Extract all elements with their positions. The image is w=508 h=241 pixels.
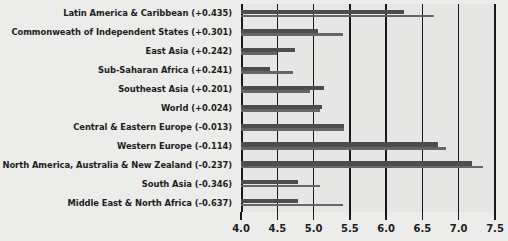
category-label: World (+0.024) [0,103,232,113]
category-label: Central & Eastern Europe (-0.013) [0,122,232,132]
x-tick-label: 6.0 [366,222,406,236]
gridline [385,4,386,212]
plot-area [241,4,495,212]
category-label: Latin America & Caribbean (+0.435) [0,8,232,18]
x-tick [494,212,495,220]
gridline [494,4,495,212]
x-tick [458,212,459,220]
x-tick [349,212,350,220]
x-tick-label: 4.0 [221,222,261,236]
category-label: East Asia (+0.242) [0,46,232,56]
x-tick-label: 7.0 [439,222,479,236]
category-label: Middle East & North Africa (-0.637) [0,198,232,208]
bar-secondary [241,71,293,74]
category-label: Sub-Saharan Africa (+0.241) [0,65,232,75]
category-label: Western Europe (-0.114) [0,141,232,151]
bar-secondary [241,204,343,207]
gridline [422,4,423,212]
gridline [458,4,459,212]
horizontal-bar-chart: Latin America & Caribbean (+0.435)Common… [0,0,508,241]
x-tick [277,212,278,220]
x-tick-label: 5.0 [294,222,334,236]
x-tick [422,212,423,220]
x-tick-label: 6.5 [402,222,442,236]
bar-secondary [241,128,344,131]
gridline [349,4,350,212]
bar-secondary [241,185,320,188]
category-label: North America, Australia & New Zealand (… [0,160,232,170]
x-tick [240,212,241,220]
bar-secondary [241,90,310,93]
category-label: South Asia (-0.346) [0,179,232,189]
bar-secondary [241,147,446,150]
x-tick-label: 5.5 [330,222,370,236]
x-axis-tick-marks [241,212,495,222]
x-tick-label: 7.5 [475,222,508,236]
bar-secondary [241,52,277,55]
x-tick-label: 4.5 [257,222,297,236]
category-label-column: Latin America & Caribbean (+0.435)Common… [0,0,236,212]
x-tick [313,212,314,220]
bar-secondary [241,166,483,169]
category-label: Southeast Asia (+0.201) [0,84,232,94]
bar-secondary [241,33,343,36]
x-tick [385,212,386,220]
bar-secondary [241,15,434,18]
x-axis-tick-labels: 4.04.55.05.56.06.57.07.5 [0,222,508,241]
category-label: Commonweath of Independent States (+0.30… [0,27,232,37]
bar-secondary [241,109,320,112]
